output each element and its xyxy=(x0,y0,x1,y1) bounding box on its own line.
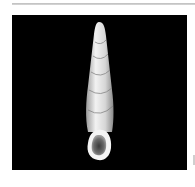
edge-mark xyxy=(193,155,195,165)
snail-shell-icon xyxy=(0,0,195,187)
